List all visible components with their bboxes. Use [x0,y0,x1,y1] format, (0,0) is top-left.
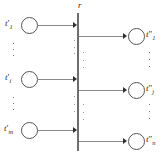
input-node-i-label: t′i [5,73,11,84]
input-node-m [21,122,38,139]
output-arrowhead-n [123,138,127,144]
output-node-1-label: t″1 [146,30,156,41]
output-1-subscript: 1 [152,34,155,41]
output-edge-j [79,90,124,91]
output-node-j [128,82,145,99]
input-edge-m [38,130,75,131]
output-edge-n [79,141,124,142]
output-edge-1 [79,36,124,37]
transition-bar [77,13,79,151]
diagram-canvas: r t′1 t′i t′m t″1 [0,0,162,160]
bar-right-ellipsis-upper [82,52,85,68]
output-ellipsis-upper [148,52,151,67]
input-arrowhead-i [73,76,77,82]
input-node-i [21,71,38,88]
output-node-n [128,133,145,150]
transition-label: r [78,1,82,10]
input-arrowhead-1 [73,22,77,28]
input-ellipsis-upper [12,43,15,56]
input-1-subscript: 1 [9,23,12,30]
bar-right-ellipsis-lower [82,104,85,120]
input-ellipsis-lower [12,97,15,110]
input-node-1-label: t′1 [5,19,13,30]
bar-left-ellipsis-lower [73,96,76,112]
input-i-subscript: i [9,77,11,84]
output-arrowhead-j [123,87,127,93]
input-edge-1 [38,25,75,26]
input-node-1 [21,17,38,34]
output-node-j-label: t″j [146,84,154,95]
bar-left-ellipsis-upper [73,40,76,54]
output-node-n-label: t″n [146,135,156,146]
input-edge-i [38,79,75,80]
output-node-1 [128,28,145,45]
input-node-m-label: t′m [4,124,13,135]
output-j-subscript: j [152,88,154,95]
output-ellipsis-lower [148,104,151,119]
output-arrowhead-1 [123,33,127,39]
output-n-subscript: n [152,139,155,146]
input-arrowhead-m [73,127,77,133]
input-m-subscript: m [8,128,13,135]
